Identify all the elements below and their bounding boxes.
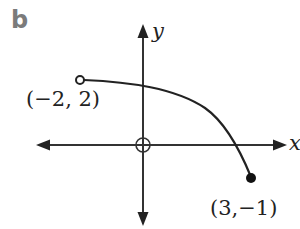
- x-axis-label: x: [289, 131, 300, 155]
- function-graph: y x (−2, 2) (3,−1): [0, 0, 300, 229]
- closed-endpoint-icon: [246, 173, 256, 183]
- y-axis: [138, 24, 149, 226]
- x-axis-left-arrow-icon: [36, 140, 50, 151]
- open-endpoint-icon: [76, 76, 84, 84]
- y-axis-down-arrow-icon: [138, 212, 149, 226]
- y-axis-label: y: [151, 19, 165, 43]
- function-curve: [84, 80, 251, 177]
- x-axis: [36, 140, 287, 151]
- point-label-end: (3,−1): [210, 196, 277, 220]
- x-axis-right-arrow-icon: [273, 140, 287, 151]
- point-label-start: (−2, 2): [26, 87, 100, 111]
- y-axis-up-arrow-icon: [138, 24, 149, 38]
